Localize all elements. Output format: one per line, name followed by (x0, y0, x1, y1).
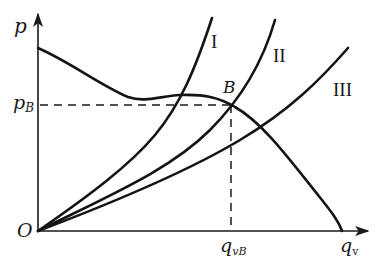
system-curve-2 (38, 20, 275, 231)
y-axis-label: p (14, 14, 27, 38)
curve-label-3: III (333, 79, 352, 100)
origin-label: O (17, 219, 33, 241)
pb-label: pB (13, 91, 34, 115)
operating-point-label: B (222, 77, 236, 97)
curve-label-2: II (273, 45, 286, 66)
diagram-canvas: p pB O qvB qv B I II III (0, 0, 380, 270)
system-curve-1 (38, 18, 212, 231)
pump-curve-diagram: p pB O qvB qv B I II III (0, 0, 380, 270)
x-axis-label: qv (340, 234, 359, 258)
qvb-label: qvB (220, 234, 246, 258)
curve-label-1: I (211, 31, 217, 52)
system-curve-3 (38, 48, 348, 231)
